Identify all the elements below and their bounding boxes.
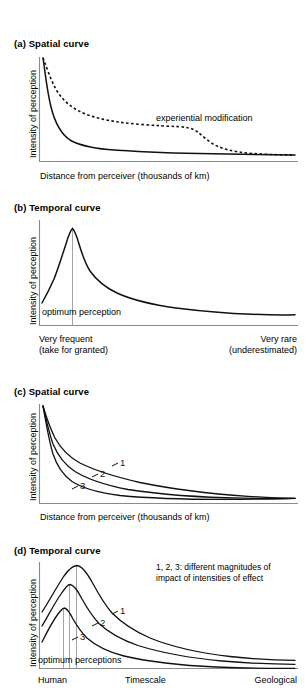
panel-a-axes [40,57,299,162]
panel-b-xlabel-left: Very frequent (take for granted) [39,334,108,355]
panel-c-label-3: 3 [80,480,85,491]
panel-d-leader-2 [92,623,98,626]
panel-b-xlabel-right: Very rare (underestimated) [229,334,297,355]
panel-b-title: (b) Temporal curve [14,202,101,213]
panel-c-title: (c) Spatial curve [14,386,89,397]
panel-d-label-2: 2 [100,617,105,628]
panel-b: (b) Temporal curve Intensity of percepti… [0,190,305,368]
panel-a: (a) Spatial curve Intensity of perceptio… [0,0,305,190]
panel-c-leader-2 [92,474,98,477]
panel-d-leader-3 [72,637,78,640]
panel-c-leader-1 [112,463,118,466]
panel-a-curve-experiential [43,58,295,155]
panel-d-label-3: 3 [80,631,85,642]
panel-d-optimum-note: optimum perceptions [38,655,122,665]
panel-b-xlabel-left-line2: (take for granted) [39,345,108,356]
panel-d-title: (d) Temporal curve [14,545,101,556]
panel-d-leader-1 [112,611,118,614]
panel-b-curve [42,229,295,315]
panel-a-plot [34,55,302,167]
panel-d-xlabel-right: Geological [254,675,297,685]
panel-d-curve-2 [42,585,295,665]
panel-c-axes [40,404,299,504]
panel-b-xlabel-left-line1: Very frequent [39,334,108,345]
panel-c-plot: 1 2 3 [34,402,302,508]
panel-b-xlabel-right-line2: (underestimated) [229,345,297,356]
panel-d-label-1: 1 [120,605,125,616]
four-panel-perception-figure: (a) Spatial curve Intensity of perceptio… [0,0,305,689]
panel-c-label-1: 1 [120,457,125,468]
panel-b-optimum-note: optimum perception [42,307,121,317]
panel-a-experiential-annotation: experiential modification [156,113,253,123]
panel-c-xlabel: Distance from perceiver (thousands of km… [40,512,210,522]
panel-d: (d) Temporal curve 1, 2, 3: different ma… [0,528,305,689]
panel-d-xlabel-left: Human [38,675,67,685]
panel-a-curve-baseline [43,58,295,155]
panel-a-xlabel: Distance from perceiver (thousands of km… [40,171,210,181]
panel-d-xlabel-center: Timescale [125,675,166,685]
panel-b-xlabel-right-line1: Very rare [229,334,297,345]
panel-a-title: (a) Spatial curve [14,38,89,49]
panel-c-leader-3 [72,486,78,489]
panel-d-axes [40,562,299,669]
panel-c: (c) Spatial curve Intensity of perceptio… [0,368,305,528]
panel-c-label-2: 2 [100,468,105,479]
panel-d-curve-1 [42,566,295,661]
